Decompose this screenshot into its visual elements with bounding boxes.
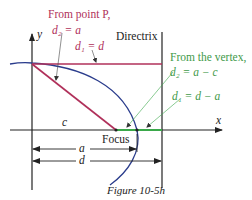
vertex-point: [135, 128, 138, 131]
dim-a-label: a: [79, 142, 85, 154]
directrix-label: Directrix: [116, 30, 158, 42]
figure-caption: Figure 10-5h: [106, 184, 165, 196]
parabola-diagram: y x Directrix Focus c a d From point P, …: [0, 0, 252, 200]
y-axis-label: y: [36, 28, 43, 41]
point-p-note-d2: d₂ = a: [52, 24, 81, 36]
d2-segment: [32, 64, 116, 130]
point-p-note-d1: d₁ = d: [75, 40, 104, 52]
dim-c-label: c: [62, 116, 67, 128]
vertex-note-d2: d₂ = a − c: [170, 66, 218, 78]
focus-label: Focus: [102, 133, 130, 145]
focus-point: [114, 128, 117, 131]
dim-d-label: d: [79, 154, 85, 166]
vertex-note-d1: d₁ = d − a: [172, 90, 221, 102]
vertex-note-title: From the vertex,: [170, 51, 246, 64]
parabola-curve: [10, 63, 138, 185]
point-p-note-title: From point P,: [48, 8, 110, 21]
pointer-d2-green: [127, 72, 173, 127]
x-axis-label: x: [215, 114, 222, 126]
pointer-d2-pink: [56, 33, 62, 80]
pointer-d1-green: [147, 99, 180, 127]
